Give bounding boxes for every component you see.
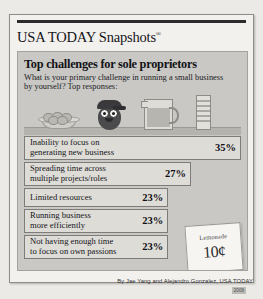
bar-fill: Limited resources 23% xyxy=(24,188,168,207)
byline: By Jae Yang and Alejandro Gonzalez, USA … xyxy=(24,278,253,284)
bar-value: 27% xyxy=(159,168,186,179)
bar-fill: Running business more efficiently 23% xyxy=(24,209,168,233)
snapshot-page: USA TODAY Snapshots® Top challenges for … xyxy=(0,0,263,299)
bar-value: 23% xyxy=(136,215,163,226)
masthead-rule xyxy=(17,20,246,23)
kid-face-with-cap-icon xyxy=(96,100,123,130)
year-stamp: 2008 xyxy=(232,287,246,294)
bar-row: Inability to focus on generating new bus… xyxy=(24,136,241,160)
bar-label: Running business more efficiently xyxy=(30,211,91,230)
infographic-frame: USA TODAY Snapshots® Top challenges for … xyxy=(9,14,254,283)
masthead-brand-text: USA TODAY Snapshots xyxy=(17,29,156,45)
lemonade-stand-illustration xyxy=(24,100,241,135)
masthead-brand: USA TODAY Snapshots® xyxy=(17,26,246,48)
chart-panel: Top challenges for sole proprietors What… xyxy=(17,51,248,271)
bar-label: Inability to focus on generating new bus… xyxy=(30,138,114,157)
bar-label: Limited resources xyxy=(30,193,92,202)
bar-label: Spreading time across multiple projects/… xyxy=(30,164,107,183)
lemonade-price-sign: Lemonade 10¢ xyxy=(184,222,243,271)
registered-mark-icon: ® xyxy=(156,30,161,38)
bar-value: 23% xyxy=(136,241,163,252)
sign-word: Lemonade xyxy=(186,231,240,242)
bar-fill: Not having enough time to focus on own p… xyxy=(24,235,168,259)
bar-row: Spreading time across multiple projects/… xyxy=(24,162,241,186)
bowl-of-lemons-icon xyxy=(38,113,78,129)
chart-header: Top challenges for sole proprietors What… xyxy=(24,57,241,92)
bar-fill: Inability to focus on generating new bus… xyxy=(24,136,241,160)
chart-subtitle: What is your primary challenge in runnin… xyxy=(24,73,229,92)
sign-price: 10¢ xyxy=(187,241,242,263)
bar-value: 23% xyxy=(136,192,163,203)
bar-label: Not having enough time to focus on own p… xyxy=(30,237,116,256)
bar-row: Limited resources 23% xyxy=(24,188,241,207)
bar-fill: Spreading time across multiple projects/… xyxy=(24,162,191,186)
chart-title: Top challenges for sole proprietors xyxy=(24,57,241,71)
lemonade-pitcher-icon xyxy=(144,99,173,130)
stack-of-cups-icon xyxy=(196,95,211,130)
bar-value: 35% xyxy=(209,142,236,153)
infographic-body: USA TODAY Snapshots® Top challenges for … xyxy=(17,20,246,276)
